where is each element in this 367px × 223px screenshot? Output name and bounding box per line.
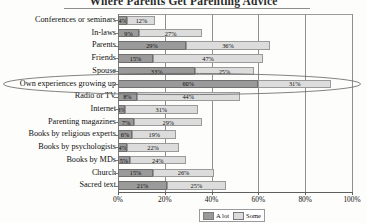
bar-segment-a-lot: 6% [118,130,132,139]
bar-segment-some: 36% [186,41,270,50]
bar-row: Friends15%47% [0,52,367,65]
bar-segment-a-lot: 8% [118,92,137,101]
category-label: Books by psychologists [38,141,116,154]
bar-segment-some: 31% [125,105,198,114]
bar-segment-a-lot: 29% [118,41,186,50]
bar-row: Own experiences growing up60%31% [0,78,367,91]
bar-segment-some: 29% [134,118,202,127]
bar-row: Parenting magazines7%29% [0,116,367,129]
chart-title: Where Parents Get Parenting Advice [0,0,367,7]
category-label: Conferences or seminars [35,14,116,27]
legend-label-a-lot: A lot [216,212,229,219]
stacked-bar: 6%19% [118,130,176,139]
stacked-bar: 3%31% [118,105,198,114]
stacked-bar: 29%36% [118,41,270,50]
category-label: Sacred text [79,179,116,192]
bar-segment-a-lot: 5% [118,156,130,165]
bar-segment-a-lot: 15% [118,169,153,178]
bar-segment-a-lot: 3% [118,105,125,114]
bar-row: Books by religious experts6%19% [0,128,367,141]
stacked-bar: 4%12% [118,16,155,25]
category-label: Friends [91,52,116,65]
bar-segment-some: 12% [127,16,155,25]
bar-segment-some: 25% [167,181,226,190]
bar-row: Books by MDs5%24% [0,154,367,167]
bar-segment-a-lot: 21% [118,181,167,190]
stacked-bar: 33%25% [118,67,254,76]
bar-row: Church15%26% [0,167,367,180]
stacked-bar: 15%26% [118,169,214,178]
category-label: Own experiences growing up [20,78,116,91]
axis-tick-label: 0% [113,195,123,204]
bar-segment-a-lot: 4% [118,143,127,152]
legend-item-some: Some [233,212,261,220]
bar-segment-some: 44% [137,92,240,101]
title-divider [64,8,310,9]
bar-segment-some: 31% [258,80,331,89]
bar-row: Sacred text21%25% [0,179,367,192]
category-label: Parents [92,39,116,52]
bar-segment-some: 26% [153,169,214,178]
stacked-bar: 7%29% [118,118,202,127]
legend-swatch-some [233,212,244,220]
bar-segment-a-lot: 33% [118,67,195,76]
axis-tick-label: 20% [158,195,172,204]
bar-segment-some: 19% [132,130,176,139]
bar-row: Radio or TV8%44% [0,90,367,103]
bar-row: In-laws9%27% [0,27,367,40]
bar-segment-some: 47% [153,54,263,63]
legend-swatch-a-lot [203,212,214,220]
stacked-bar: 15%47% [118,54,263,63]
category-label: Parenting magazines [48,116,116,129]
chart-container: Where Parents Get Parenting Advice Confe… [0,0,367,223]
axis-tick-label: 80% [298,195,312,204]
axis-tick-label: 40% [205,195,219,204]
bar-segment-a-lot: 4% [118,16,127,25]
axis-tick-label: 100% [343,195,360,204]
bar-segment-some: 22% [127,143,178,152]
bar-row: Conferences or seminars4%12% [0,14,367,27]
legend-label-some: Some [246,212,261,219]
stacked-bar: 21%25% [118,181,226,190]
stacked-bar: 5%24% [118,156,186,165]
legend-item-a-lot: A lot [203,212,229,220]
category-label: In-laws [91,27,116,40]
category-label: Church [92,167,116,180]
category-label: Radio or TV [75,90,116,103]
bar-segment-some: 25% [195,67,254,76]
bar-segment-some: 24% [130,156,186,165]
bar-row: Spouse33%25% [0,65,367,78]
stacked-bar: 4%22% [118,143,179,152]
bar-segment-a-lot: 7% [118,118,134,127]
bar-row: Books by psychologists4%22% [0,141,367,154]
category-label: Spouse [92,65,116,78]
bar-segment-a-lot: 15% [118,54,153,63]
bar-row: Parents29%36% [0,39,367,52]
bar-segment-some: 27% [139,29,202,38]
bar-segment-a-lot: 9% [118,29,139,38]
category-label: Books by religious experts [28,128,116,141]
category-label: Books by MDs [66,154,116,167]
x-axis-line [118,192,352,193]
axis-tick-label: 60% [252,195,266,204]
category-label: Internet [91,103,116,116]
stacked-bar: 60%31% [118,80,331,89]
chart-legend: A lot Some [199,209,265,222]
bar-row: Internet3%31% [0,103,367,116]
bar-segment-a-lot: 60% [118,80,258,89]
stacked-bar: 9%27% [118,29,202,38]
stacked-bar: 8%44% [118,92,240,101]
